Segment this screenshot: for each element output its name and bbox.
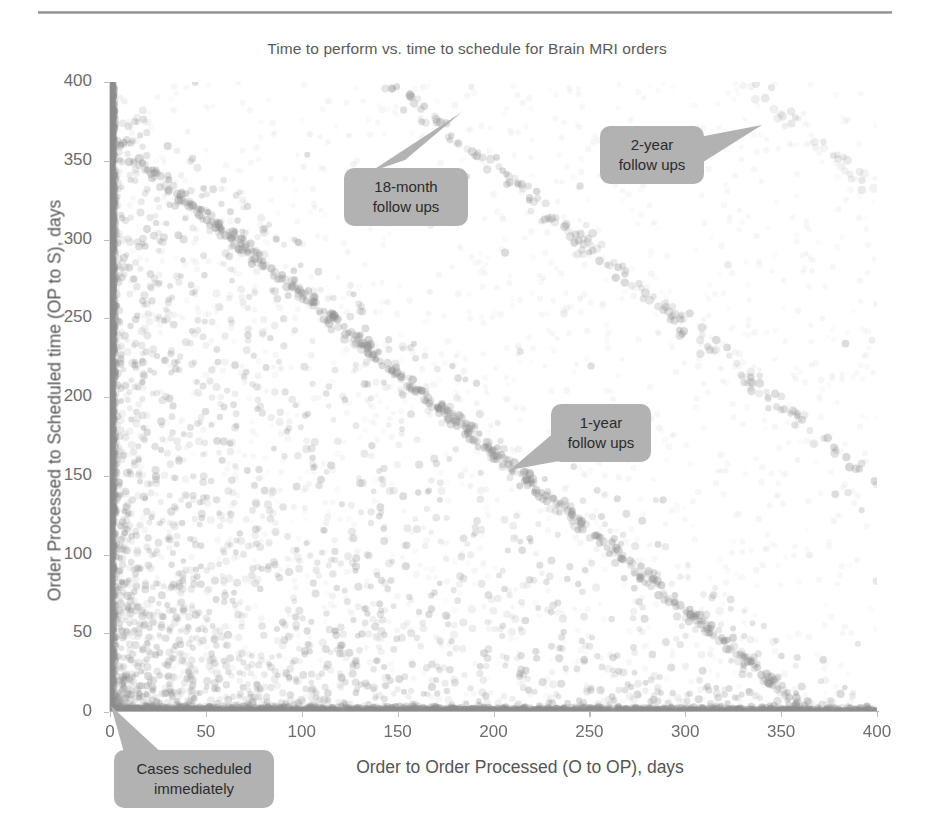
x-tick-label-200: 200 xyxy=(459,722,529,742)
y-tick-400 xyxy=(104,82,109,83)
callout-cases-line1: Cases scheduled xyxy=(127,759,261,779)
x-tick-200 xyxy=(494,712,495,717)
y-tick-200 xyxy=(104,397,109,398)
chart-title: Time to perform vs. time to schedule for… xyxy=(0,40,934,58)
y-tick-150 xyxy=(104,476,109,477)
y-tick-350 xyxy=(104,161,109,162)
x-tick-250 xyxy=(589,712,590,717)
callout-2year-line1: 2-year xyxy=(613,135,691,155)
callout-18month-line2: follow ups xyxy=(357,197,455,217)
callout-cases-line2: immediately xyxy=(127,779,261,799)
x-tick-label-300: 300 xyxy=(650,722,720,742)
callout-2year-line2: follow ups xyxy=(613,155,691,175)
callout-cases-scheduled-immediately: Cases scheduled immediately xyxy=(114,750,274,808)
callout-1-year-follow-ups: 1-year follow ups xyxy=(551,404,651,462)
figure-root: Time to perform vs. time to schedule for… xyxy=(0,0,934,835)
callout-1year-line2: follow ups xyxy=(564,433,638,453)
x-tick-label-150: 150 xyxy=(363,722,433,742)
x-tick-label-350: 350 xyxy=(746,722,816,742)
y-axis-line xyxy=(109,82,110,712)
callout-18-month-follow-ups: 18-month follow ups xyxy=(344,168,468,226)
y-tick-250 xyxy=(104,318,109,319)
y-tick-50 xyxy=(104,633,109,634)
x-tick-label-400: 400 xyxy=(842,722,912,742)
x-tick-150 xyxy=(398,712,399,717)
x-tick-300 xyxy=(685,712,686,717)
y-axis-title: Order Processed to Scheduled time (OP to… xyxy=(45,91,66,711)
top-divider-rule xyxy=(38,11,892,14)
y-tick-100 xyxy=(104,555,109,556)
x-tick-label-250: 250 xyxy=(554,722,624,742)
y-tick-label-400: 400 xyxy=(30,71,92,91)
x-tick-400 xyxy=(877,712,878,717)
callout-2-year-follow-ups: 2-year follow ups xyxy=(600,126,704,184)
callout-18month-line1: 18-month xyxy=(357,177,455,197)
x-tick-350 xyxy=(781,712,782,717)
y-tick-300 xyxy=(104,240,109,241)
callout-1year-line1: 1-year xyxy=(564,413,638,433)
